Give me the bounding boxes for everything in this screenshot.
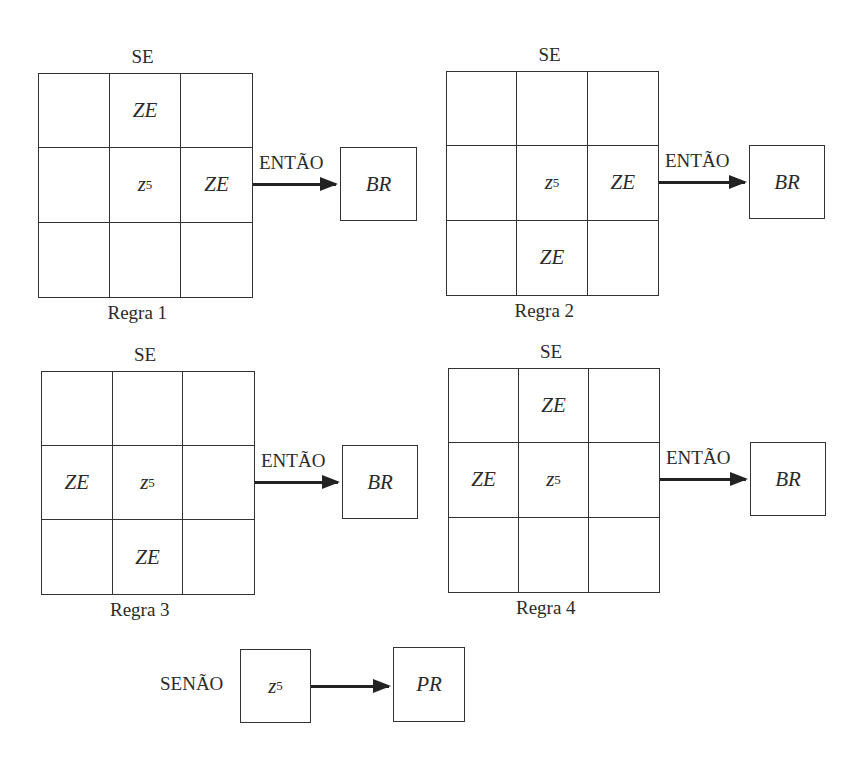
output-box: BR: [750, 442, 826, 516]
empty-cell: [39, 74, 110, 148]
empty-cell: [110, 223, 181, 297]
arrow-icon: [253, 183, 336, 186]
empty-cell: [183, 446, 254, 520]
arrow-icon: [660, 478, 746, 481]
center-cell: z5: [113, 446, 184, 520]
empty-cell: [589, 518, 659, 592]
empty-cell: [181, 223, 252, 297]
rule-title: Regra 2: [515, 300, 575, 322]
center-subscript: 5: [146, 177, 153, 193]
then-label: ENTÃO: [665, 150, 729, 172]
empty-cell: [517, 72, 587, 146]
neighborhood-grid: z5ZEZE: [446, 71, 659, 296]
neighbor-cell-ze: ZE: [113, 520, 184, 594]
center-subscript: 5: [554, 472, 561, 488]
empty-cell: [589, 443, 659, 517]
empty-cell: [447, 221, 517, 295]
empty-cell: [183, 372, 254, 446]
empty-cell: [589, 369, 659, 443]
center-variable: z: [546, 467, 554, 492]
center-cell: z5: [110, 148, 181, 222]
neighborhood-grid: ZEz5ZE: [38, 73, 253, 298]
neighbor-cell-ze: ZE: [517, 221, 587, 295]
rule-title: Regra 4: [516, 597, 576, 619]
empty-cell: [42, 372, 113, 446]
empty-cell: [588, 221, 658, 295]
neighbor-cell-ze: ZE: [519, 369, 589, 443]
center-variable: z: [138, 172, 146, 197]
empty-cell: [519, 518, 589, 592]
output-box: BR: [749, 145, 825, 219]
empty-cell: [39, 223, 110, 297]
empty-cell: [588, 72, 658, 146]
arrow-icon: [659, 181, 745, 184]
empty-cell: [181, 74, 252, 148]
then-label: ENTÃO: [666, 447, 730, 469]
empty-cell: [113, 372, 184, 446]
empty-cell: [449, 518, 519, 592]
empty-cell: [183, 520, 254, 594]
then-label: ENTÃO: [259, 152, 323, 174]
if-label: SE: [540, 341, 562, 363]
rule-title: Regra 1: [108, 302, 168, 324]
center-variable: z: [268, 674, 276, 699]
arrow-icon: [255, 481, 338, 484]
else-label: SENÃO: [160, 673, 223, 695]
empty-cell: [42, 520, 113, 594]
if-label: SE: [134, 344, 156, 366]
rule-title: Regra 3: [110, 599, 170, 621]
if-label: SE: [539, 44, 561, 66]
neighbor-cell-ze: ZE: [588, 146, 658, 220]
center-variable: z: [140, 470, 148, 495]
neighbor-cell-ze: ZE: [110, 74, 181, 148]
center-cell: z5: [517, 146, 587, 220]
center-subscript: 5: [276, 678, 283, 694]
neighbor-cell-ze: ZE: [181, 148, 252, 222]
else-output-box: PR: [393, 647, 465, 722]
center-cell: z5: [519, 443, 589, 517]
empty-cell: [447, 72, 517, 146]
center-variable: z: [545, 170, 553, 195]
neighbor-cell-ze: ZE: [449, 443, 519, 517]
output-box: BR: [342, 445, 418, 519]
neighbor-cell-ze: ZE: [42, 446, 113, 520]
empty-cell: [449, 369, 519, 443]
neighborhood-grid: ZEZEz5: [448, 368, 660, 593]
else-input-box: z5: [240, 649, 311, 723]
center-subscript: 5: [148, 475, 155, 491]
empty-cell: [39, 148, 110, 222]
arrow-icon: [311, 685, 389, 688]
neighborhood-grid: ZEz5ZE: [41, 371, 255, 595]
output-box: BR: [340, 147, 417, 221]
empty-cell: [447, 146, 517, 220]
if-label: SE: [132, 46, 154, 68]
center-subscript: 5: [553, 175, 560, 191]
then-label: ENTÃO: [261, 450, 325, 472]
